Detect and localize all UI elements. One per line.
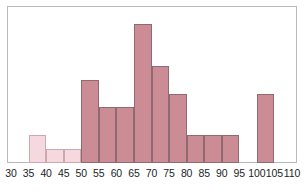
plot-frame <box>7 6 297 163</box>
x-tick-label: 100 <box>248 166 265 180</box>
x-tick-label: 105 <box>266 166 283 180</box>
x-tick-label: 35 <box>23 166 34 180</box>
x-axis-tick-labels: 3035404550556065707580859095100105110 <box>0 166 305 190</box>
x-tick-label: 95 <box>234 166 245 180</box>
x-tick-label: 85 <box>198 166 209 180</box>
x-tick-label: 50 <box>76 166 87 180</box>
x-tick-label: 70 <box>146 166 157 180</box>
x-tick-label: 30 <box>5 166 16 180</box>
x-tick-label: 80 <box>181 166 192 180</box>
x-tick-label: 65 <box>128 166 139 180</box>
x-tick-label: 90 <box>216 166 227 180</box>
x-tick-label: 110 <box>284 166 300 180</box>
x-tick-label: 60 <box>111 166 122 180</box>
histogram-chart: 3035404550556065707580859095100105110 <box>0 0 305 192</box>
x-tick-label: 45 <box>58 166 69 180</box>
x-tick-label: 40 <box>40 166 51 180</box>
x-tick-label: 75 <box>163 166 174 180</box>
x-tick-label: 55 <box>93 166 104 180</box>
